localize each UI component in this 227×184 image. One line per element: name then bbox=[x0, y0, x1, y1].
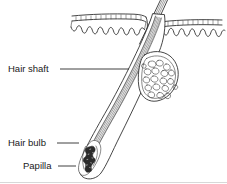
sebaceous-gland bbox=[138, 52, 178, 102]
epidermis-left-cell-ticks bbox=[76, 14, 141, 21]
diagram-canvas: Hair shaft Hair bulb Papilla bbox=[0, 0, 227, 184]
epidermis-right bbox=[164, 20, 222, 27]
dermal-wave-right bbox=[163, 27, 225, 37]
label-papilla: Papilla bbox=[23, 160, 52, 171]
label-hair-shaft: Hair shaft bbox=[8, 63, 49, 74]
hair-follicle-diagram: Hair shaft Hair bulb Papilla bbox=[0, 0, 227, 184]
label-hair-bulb: Hair bulb bbox=[8, 137, 46, 148]
dermal-wave-left bbox=[71, 21, 146, 35]
